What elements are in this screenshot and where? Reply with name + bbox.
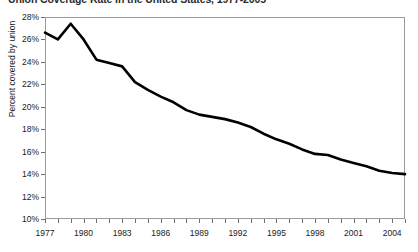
x-axis-tick-label: 1992: [228, 228, 247, 238]
series-line-percent-covered-by-union: [45, 17, 405, 219]
x-axis-tick-label: 1983: [113, 228, 132, 238]
x-axis-tick-mark: [328, 219, 329, 223]
x-axis-tick-mark: [289, 219, 290, 223]
x-axis-tick-mark: [366, 219, 367, 223]
x-axis-tick-mark: [264, 219, 265, 223]
x-axis-tick-mark: [122, 219, 123, 223]
x-axis-tick-mark: [212, 219, 213, 223]
x-axis-tick-mark: [109, 219, 110, 223]
x-axis-tick-mark: [135, 219, 136, 223]
x-axis-tick-mark: [96, 219, 97, 223]
x-axis-tick-mark: [341, 219, 342, 223]
x-axis-tick-mark: [302, 219, 303, 223]
x-axis-tick-label: 1995: [267, 228, 286, 238]
x-axis-tick-mark: [276, 219, 277, 223]
x-axis-tick-mark: [225, 219, 226, 223]
x-axis-tick-mark: [405, 219, 406, 223]
x-axis-tick-mark: [84, 219, 85, 223]
x-axis-tick-mark: [315, 219, 316, 223]
x-axis-tick-label: 2001: [344, 228, 363, 238]
x-axis-tick-label: 1980: [74, 228, 93, 238]
x-axis-tick-mark: [58, 219, 59, 223]
x-axis-tick-mark: [238, 219, 239, 223]
union-coverage-chart: Union Coverage Rate in the United States…: [0, 0, 418, 252]
x-axis-tick-mark: [71, 219, 72, 223]
x-axis-tick-mark: [354, 219, 355, 223]
x-axis-tick-mark: [161, 219, 162, 223]
x-axis-tick-label: 1998: [306, 228, 325, 238]
x-axis-tick-label: 2004: [383, 228, 402, 238]
x-axis-tick-label: 1986: [151, 228, 170, 238]
x-axis-tick-mark: [392, 219, 393, 223]
x-axis-tick-label: 1989: [190, 228, 209, 238]
series-polyline: [45, 24, 405, 174]
x-axis-tick-mark: [45, 219, 46, 223]
x-axis-tick-mark: [199, 219, 200, 223]
x-axis-tick-label: 1977: [36, 228, 55, 238]
x-axis-tick-mark: [148, 219, 149, 223]
x-axis-tick-mark: [251, 219, 252, 223]
x-axis-tick-mark: [174, 219, 175, 223]
x-axis-tick-mark: [379, 219, 380, 223]
x-axis-tick-mark: [186, 219, 187, 223]
